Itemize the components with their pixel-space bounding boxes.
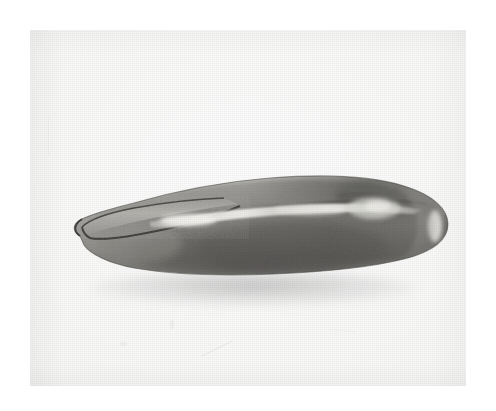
artifact [42, 148, 454, 288]
print-hairline [330, 329, 356, 333]
image-alt-text: Black and white photograph of a long nar… [0, 0, 1, 1]
print-hairline [202, 341, 233, 357]
print-blemish [170, 320, 174, 329]
artifact-body [42, 148, 459, 288]
artifact-illustration [42, 148, 454, 288]
screenshot-root: Black and white photograph of a long nar… [0, 0, 496, 411]
print-blemish [120, 342, 127, 346]
photograph [30, 30, 466, 386]
